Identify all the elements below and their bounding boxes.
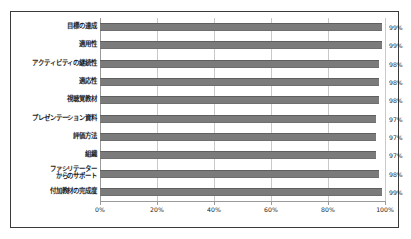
bar-row: 組織97% (11, 146, 400, 164)
bar-value-label: 99% (389, 24, 403, 31)
x-tick-label: 0% (95, 206, 105, 213)
category-label: アクティビティの継続性 (32, 60, 97, 68)
bar-row: 付加教材の完成度99% (11, 183, 400, 201)
bar-track: 99% (100, 183, 385, 201)
bar (100, 115, 376, 123)
bar-track: 97% (100, 128, 385, 146)
bar-row: 目標の達成99% (11, 18, 400, 36)
x-tick-label: 20% (150, 206, 164, 213)
bar-value-label: 98% (389, 60, 403, 67)
category-label: 適用性 (79, 42, 97, 50)
bar (100, 78, 379, 86)
bar-row: プレゼンテーション資料97% (11, 109, 400, 127)
x-axis-baseline (100, 201, 386, 202)
bar-value-label: 99% (389, 188, 403, 195)
bar-row: 視聴覚教材98% (11, 91, 400, 109)
bar-track: 97% (100, 146, 385, 164)
category-label: プレゼンテーション資料 (32, 115, 97, 123)
bar-row: アクティビティの継続性98% (11, 55, 400, 73)
category-label: 評価方法 (73, 133, 97, 141)
bar-track: 97% (100, 109, 385, 127)
bar-value-label: 98% (389, 79, 403, 86)
x-axis-tick-labels: 0%20%40%60%80%100% (100, 206, 385, 218)
bar-value-label: 97% (389, 133, 403, 140)
x-tick-label: 40% (207, 206, 221, 213)
bar (100, 96, 379, 104)
chart-inner: 目標の達成99%適用性99%アクティビティの継続性98%適応性98%視聴覚教材9… (11, 12, 398, 227)
bar (100, 151, 376, 159)
bar (100, 60, 379, 68)
category-label: 目標の達成 (67, 23, 97, 31)
bar-track: 98% (100, 55, 385, 73)
category-label: 適応性 (79, 78, 97, 86)
bar-value-label: 97% (389, 152, 403, 159)
bar-track: 98% (100, 91, 385, 109)
bar-track: 98% (100, 164, 385, 182)
bar-value-label: 99% (389, 42, 403, 49)
bar-row: ファシリテーター からのサポート98% (11, 164, 400, 182)
bar (100, 170, 379, 178)
bar-value-label: 98% (389, 170, 403, 177)
bar-row: 評価方法97% (11, 128, 400, 146)
bar-track: 99% (100, 18, 385, 36)
bar (100, 23, 382, 31)
bar-row: 適用性99% (11, 36, 400, 54)
bar-track: 98% (100, 73, 385, 91)
x-tick-label: 80% (321, 206, 335, 213)
chart-frame: 目標の達成99%適用性99%アクティビティの継続性98%適応性98%視聴覚教材9… (10, 11, 399, 228)
bar (100, 133, 376, 141)
bar-track: 99% (100, 36, 385, 54)
category-label: 付加教材の完成度 (50, 188, 97, 196)
category-label: ファシリテーター からのサポート (50, 166, 97, 181)
bar (100, 188, 382, 196)
category-label: 組織 (85, 151, 97, 159)
x-tick-label: 100% (376, 206, 394, 213)
bar-row: 適応性98% (11, 73, 400, 91)
x-tick-label: 60% (264, 206, 278, 213)
bar-value-label: 98% (389, 97, 403, 104)
category-label: 視聴覚教材 (67, 97, 97, 105)
bar (100, 41, 382, 49)
bar-value-label: 97% (389, 115, 403, 122)
bar-rows: 目標の達成99%適用性99%アクティビティの継続性98%適応性98%視聴覚教材9… (11, 18, 400, 201)
